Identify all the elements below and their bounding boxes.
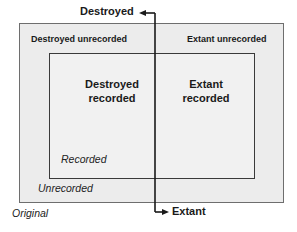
arrow-right-icon xyxy=(162,209,169,215)
original-label: Original xyxy=(12,207,48,219)
extant-recorded-line1: Extant xyxy=(166,77,246,91)
arrow-left-icon xyxy=(139,10,146,16)
recorded-box-label: Recorded xyxy=(61,153,107,165)
extant-recorded-label: Extant recorded xyxy=(166,77,246,105)
destroyed-unrecorded-label: Destroyed unrecorded xyxy=(31,34,127,44)
destroyed-axis-label: Destroyed xyxy=(80,5,134,17)
destroyed-recorded-line1: Destroyed xyxy=(72,77,152,91)
unrecorded-box-label: Unrecorded xyxy=(38,182,93,194)
destroyed-recorded-line2: recorded xyxy=(72,91,152,105)
extant-axis-label: Extant xyxy=(172,205,206,217)
extant-unrecorded-label: Extant unrecorded xyxy=(187,34,267,44)
destroyed-recorded-label: Destroyed recorded xyxy=(72,77,152,105)
extant-recorded-line2: recorded xyxy=(166,91,246,105)
